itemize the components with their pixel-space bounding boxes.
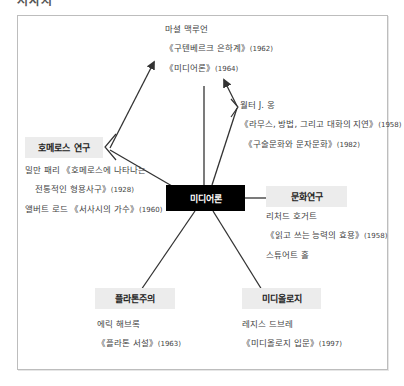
ong-block: 월터 J. 옹 《라무스, 방법, 그리고 대화의 지연》(1958) 《구술문… [240, 96, 402, 155]
node-cultural-studies: 문화연구 [266, 186, 347, 207]
platonism-scholar-block: 에릭 해브록 《플라톤 서설》(1963) [97, 315, 181, 354]
node-mediology: 미디올로지 [242, 288, 321, 309]
arrow-ong-to-mcluhan [224, 80, 237, 106]
line-center-to-ong [212, 108, 237, 185]
work-title: 《구술문화와 문자문화》(1982) [240, 135, 402, 155]
homer-scholars-block: 밀만 패리 《호메로스에 나타나는 전통적인 형용사구》(1928) 앨버트 로… [25, 161, 162, 220]
node-homer-studies: 호메로스 연구 [25, 137, 103, 158]
line-center-to-platonism [141, 211, 195, 290]
work-title: 《미디어론》(1964) [165, 59, 273, 79]
mcluhan-block: 마셜 맥루언 《구텐베르크 은하계》(1962) 《미디어론》(1964) [165, 20, 273, 79]
node-media-theory-center: 미디어론 [166, 185, 245, 211]
arrow-homer-to-mcluhan [110, 62, 154, 148]
author-name: 월터 J. 옹 [240, 96, 402, 115]
work-title: 《플라톤 서설》(1963) [97, 334, 181, 354]
node-platonism: 플라톤주의 [95, 288, 175, 309]
line-center-to-mediology [213, 211, 262, 290]
mediology-scholar-block: 레지스 드브레 《미디올로지 입문》(1997) [242, 315, 342, 354]
text-line: 밀만 패리 《호메로스에 나타나는 [25, 161, 162, 180]
author-name: 마셜 맥루언 [165, 20, 273, 39]
work-title: 《읽고 쓰는 능력의 효용》(1958) [266, 226, 387, 246]
author-name: 레지스 드브레 [242, 315, 342, 334]
work-title: 《미디올로지 입문》(1997) [242, 334, 342, 354]
author-name: 에릭 해브록 [97, 315, 181, 334]
author-name: 스튜어트 홀 [266, 246, 387, 265]
work-title: 《구텐베르크 은하계》(1962) [165, 39, 273, 59]
culture-scholars-block: 리처드 호거트 《읽고 쓰는 능력의 효용》(1958) 스튜어트 홀 [266, 207, 387, 265]
author-name: 리처드 호거트 [266, 207, 387, 226]
text-line: 앨버트 로드 《서사시의 가수》(1960) [25, 200, 162, 220]
text-line: 전통적인 형용사구》(1928) [25, 180, 162, 200]
work-title: 《라무스, 방법, 그리고 대화의 지연》(1958) [240, 115, 402, 135]
